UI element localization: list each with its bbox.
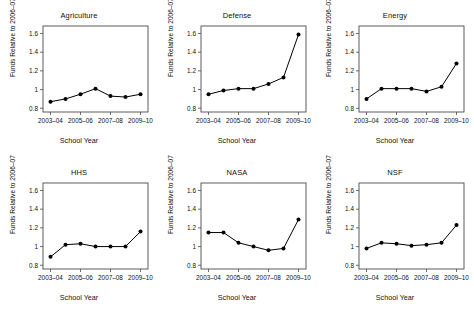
y-tick-label: 1 [34,86,38,93]
x-tick-label: 2005–06 [68,117,93,124]
y-tick-label: 0.8 [345,105,354,112]
y-tick-label: 1 [192,243,196,250]
x-tick-label: 2009–10 [286,117,311,124]
y-tick-label: 1.6 [187,30,196,37]
data-point [380,87,384,91]
x-tick-label: 2007–08 [414,117,439,124]
data-point [124,95,128,99]
x-tick-label: 2003–04 [196,274,221,281]
x-tick-label: 2007–08 [98,274,123,281]
data-point [94,87,98,91]
data-point [282,75,286,79]
data-point [380,241,384,245]
data-point [237,241,241,245]
panel-defense: DefenseFunds Relative to 2006–07School Y… [158,0,316,157]
x-tick-label: 2007–08 [414,274,439,281]
y-tick-label: 1.2 [345,67,354,74]
y-tick-label: 0.8 [345,262,354,269]
y-tick-label: 1.4 [345,48,354,55]
data-point [49,100,53,104]
data-point [440,241,444,245]
panel-nasa: NASAFunds Relative to 2006–07School Year… [158,157,316,314]
panel-nsf: NSFFunds Relative to 2006–07School Year0… [316,157,474,314]
x-tick-label: 2003–04 [354,117,379,124]
y-tick-label: 1.6 [29,30,38,37]
data-point [282,246,286,250]
x-tick-label: 2007–08 [256,117,281,124]
y-tick-label: 1.4 [187,205,196,212]
data-point [109,245,113,249]
x-tick-label: 2009–10 [444,117,469,124]
data-point [365,246,369,250]
data-point [252,87,256,91]
data-point [94,245,98,249]
x-tick-label: 2007–08 [256,274,281,281]
data-point [425,243,429,247]
x-tick-label: 2005–06 [68,274,93,281]
x-tick-label: 2005–06 [226,274,251,281]
data-point [425,89,429,93]
y-tick-label: 1.2 [29,224,38,231]
x-tick-label: 2003–04 [38,117,63,124]
x-tick-label: 2003–04 [354,274,379,281]
panel-hhs: HHSFunds Relative to 2006–07School Year0… [0,157,158,314]
y-tick-label: 1.4 [29,48,38,55]
y-tick-label: 0.8 [29,262,38,269]
y-tick-label: 1 [350,86,354,93]
plot-area: 0.811.21.41.62003–042005–062007–082009–1… [316,0,474,157]
series-line [367,63,457,99]
x-tick-label: 2009–10 [128,274,153,281]
y-tick-label: 1 [192,86,196,93]
y-tick-label: 1 [350,243,354,250]
plot-area: 0.811.21.41.62003–042005–062007–082009–1… [158,0,316,157]
plot-area: 0.811.21.41.62003–042005–062007–082009–1… [0,0,158,157]
x-tick-label: 2003–04 [196,117,221,124]
panel-agriculture: AgricultureFunds Relative to 2006–07Scho… [0,0,158,157]
data-point [455,61,459,65]
data-point [267,248,271,252]
data-point [365,97,369,101]
data-point [222,89,226,93]
series-line [209,34,299,94]
data-point [222,231,226,235]
data-point [237,87,241,91]
y-tick-label: 0.8 [187,262,196,269]
data-point [297,32,301,36]
data-point [395,242,399,246]
data-point [207,231,211,235]
x-tick-label: 2009–10 [286,274,311,281]
y-tick-label: 1.6 [345,30,354,37]
data-point [410,87,414,91]
y-tick-label: 1.6 [29,187,38,194]
x-tick-label: 2003–04 [38,274,63,281]
panel-energy: EnergyFunds Relative to 2006–07School Ye… [316,0,474,157]
x-tick-label: 2009–10 [444,274,469,281]
data-point [79,92,83,96]
plot-area: 0.811.21.41.62003–042005–062007–082009–1… [0,157,158,314]
x-tick-label: 2005–06 [384,274,409,281]
data-point [297,217,301,221]
y-tick-label: 1.6 [187,187,196,194]
data-point [440,85,444,89]
data-point [455,223,459,227]
data-point [139,92,143,96]
data-point [64,243,68,247]
multi-panel-figure: AgricultureFunds Relative to 2006–07Scho… [0,0,474,314]
y-tick-label: 1.4 [29,205,38,212]
y-tick-label: 1.4 [187,48,196,55]
y-tick-label: 1.2 [187,67,196,74]
plot-area: 0.811.21.41.62003–042005–062007–082009–1… [158,157,316,314]
data-point [64,97,68,101]
x-tick-label: 2005–06 [384,117,409,124]
x-tick-label: 2007–08 [98,117,123,124]
y-tick-label: 1 [34,243,38,250]
y-tick-label: 1.2 [29,67,38,74]
data-point [109,94,113,98]
data-point [410,244,414,248]
x-tick-label: 2009–10 [128,117,153,124]
data-point [395,87,399,91]
y-tick-label: 0.8 [29,105,38,112]
data-point [252,245,256,249]
y-tick-label: 1.4 [345,205,354,212]
data-point [124,245,128,249]
